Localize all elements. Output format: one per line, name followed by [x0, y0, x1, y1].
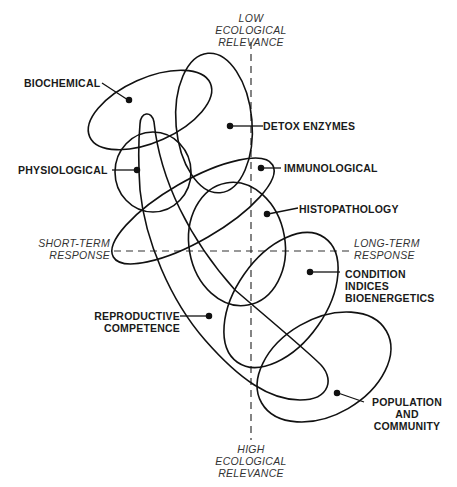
label-physiological: PHYSIOLOGICAL	[18, 164, 108, 176]
label-biochemical: BIOCHEMICAL	[24, 77, 100, 89]
label-reproductive-competence: REPRODUCTIVE COMPETENCE	[90, 310, 180, 334]
label-histopathology: HISTOPATHOLOGY	[299, 203, 399, 215]
detox-enzymes-ellipse	[170, 50, 258, 196]
physiological-dot	[134, 167, 139, 172]
axis-label-short-term-response: SHORT-TERM RESPONSE	[30, 237, 110, 261]
condition-dot	[307, 269, 312, 274]
immunological-ellipse	[98, 139, 287, 283]
axis-label-long-term-response: LONG-TERM RESPONSE	[354, 237, 434, 261]
label-condition-indices-bioenergetics: CONDITION INDICES BIOENERGETICS	[345, 268, 435, 304]
axis-label-high-ecological-relevance: HIGH ECOLOGICAL RELEVANCE	[213, 443, 289, 479]
immunological-dot	[258, 165, 263, 170]
histopathology-dot	[264, 211, 269, 216]
label-detox-enzymes: DETOX ENZYMES	[263, 120, 355, 132]
population-dot	[334, 390, 339, 395]
reproductive-dot	[206, 313, 211, 318]
detox-dot	[227, 123, 232, 128]
label-immunological: IMMUNOLOGICAL	[284, 162, 378, 174]
axis-label-low-ecological-relevance: LOW ECOLOGICAL RELEVANCE	[213, 12, 289, 48]
label-population-community: POPULATION AND COMMUNITY	[368, 396, 446, 432]
biochemical-ellipse	[77, 54, 224, 166]
biochemical-dot	[126, 97, 131, 102]
